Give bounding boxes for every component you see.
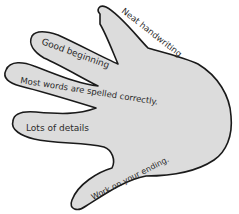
finger-label-lots-of-details: Lots of details xyxy=(26,123,89,133)
hand-graphic: Neat handwriting Good beginning Most wor… xyxy=(0,0,239,214)
svg-text:Lots of details: Lots of details xyxy=(26,123,89,133)
